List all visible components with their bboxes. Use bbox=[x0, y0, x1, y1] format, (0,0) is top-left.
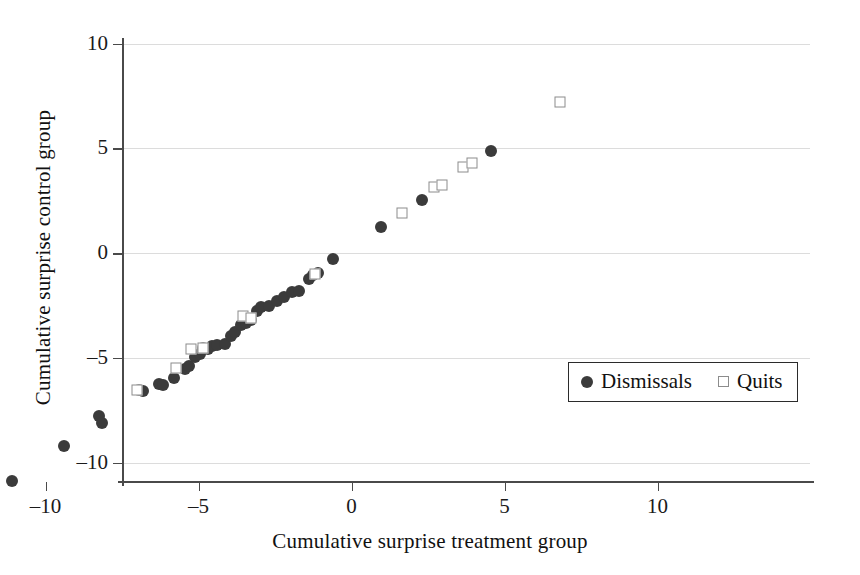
legend-label-quits: Quits bbox=[737, 369, 783, 394]
y-tick-mark-0 bbox=[113, 463, 122, 465]
y-axis-title: Cumulative surprise control group bbox=[31, 48, 56, 468]
chart-legend: Dismissals Quits bbox=[568, 362, 798, 402]
data-point-dismissals-29 bbox=[293, 285, 305, 297]
data-point-dismissals-0 bbox=[6, 475, 18, 487]
legend-entry-dismissals: Dismissals bbox=[581, 369, 692, 394]
data-point-dismissals-1 bbox=[58, 440, 70, 452]
y-tick-mark-2 bbox=[113, 253, 122, 255]
gridline-y-0 bbox=[123, 463, 810, 464]
x-axis-spine bbox=[118, 481, 814, 483]
gridline-y-4 bbox=[123, 44, 810, 45]
data-point-dismissals-36 bbox=[485, 145, 497, 157]
data-point-quits-6 bbox=[309, 268, 320, 279]
x-tick-mark-1 bbox=[199, 482, 201, 491]
gridline-y-1 bbox=[123, 358, 810, 359]
data-point-quits-7 bbox=[396, 208, 407, 219]
x-tick-label-2: 0 bbox=[312, 496, 392, 517]
y-tick-label-3: 5 bbox=[48, 137, 108, 158]
x-tick-label-3: 5 bbox=[465, 496, 545, 517]
data-point-dismissals-34 bbox=[375, 221, 387, 233]
open-square-marker-icon bbox=[718, 376, 729, 387]
data-point-dismissals-35 bbox=[416, 194, 428, 206]
x-tick-label-4: 10 bbox=[618, 496, 698, 517]
data-point-dismissals-33 bbox=[327, 253, 339, 265]
data-point-quits-9 bbox=[436, 179, 447, 190]
data-point-quits-0 bbox=[132, 385, 143, 396]
y-tick-mark-1 bbox=[113, 358, 122, 360]
data-point-quits-5 bbox=[245, 312, 256, 323]
gridline-y-2 bbox=[123, 253, 810, 254]
y-tick-label-2: 0 bbox=[48, 242, 108, 263]
data-point-dismissals-7 bbox=[157, 379, 169, 391]
y-tick-mark-3 bbox=[113, 148, 122, 150]
plot-area bbox=[123, 43, 810, 481]
x-tick-label-0: –10 bbox=[6, 496, 86, 517]
data-point-quits-2 bbox=[185, 344, 196, 355]
y-tick-mark-4 bbox=[113, 44, 122, 46]
legend-entry-quits: Quits bbox=[718, 369, 783, 394]
y-axis-spine bbox=[122, 38, 124, 486]
data-point-quits-11 bbox=[467, 157, 478, 168]
gridline-y-3 bbox=[123, 148, 810, 149]
y-tick-label-1: –5 bbox=[48, 347, 108, 368]
y-tick-label-0: –10 bbox=[48, 452, 108, 473]
x-tick-label-1: –5 bbox=[159, 496, 239, 517]
scatter-plot-figure: –10–50510 –10–50510 Cumulative surprise … bbox=[0, 0, 860, 575]
x-axis-title: Cumulative surprise treatment group bbox=[0, 529, 860, 554]
data-point-dismissals-3 bbox=[96, 417, 108, 429]
y-tick-label-4: 10 bbox=[48, 33, 108, 54]
legend-label-dismissals: Dismissals bbox=[601, 369, 692, 394]
data-point-quits-12 bbox=[554, 97, 565, 108]
filled-circle-marker-icon bbox=[581, 376, 593, 388]
x-tick-mark-4 bbox=[658, 482, 660, 491]
data-point-quits-3 bbox=[198, 343, 209, 354]
x-tick-mark-0 bbox=[46, 482, 48, 491]
x-tick-mark-2 bbox=[352, 482, 354, 491]
x-tick-mark-3 bbox=[505, 482, 507, 491]
y-tick-label-wrap-4: 10 bbox=[0, 33, 108, 34]
data-point-quits-1 bbox=[170, 363, 181, 374]
